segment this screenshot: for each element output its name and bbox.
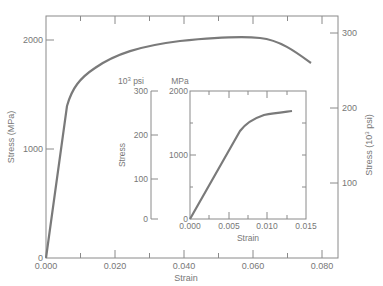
main-x-tick-labels: 0.000 0.020 0.040 0.060 0.080 xyxy=(35,261,334,271)
inset-plot: 300 200 100 0 2000 1000 0 0.000 0.005 0.… xyxy=(110,75,317,243)
inset-mpa-unit-label: MPa xyxy=(171,76,189,86)
inset-x-tick-label: 0.015 xyxy=(295,221,317,231)
main-y-axis-label-right: Stress (103 psi) xyxy=(364,114,374,175)
inset-x-tick-label: 0.000 xyxy=(179,221,201,231)
x-tick-label: 0.040 xyxy=(173,261,196,271)
inset-psi-tick-label: 100 xyxy=(134,174,148,184)
inset-y-axis-label: Stress xyxy=(117,143,127,167)
main-x-axis-label: Strain xyxy=(174,273,198,283)
stress-strain-chart: 0.000 0.020 0.040 0.060 0.080 0 1000 200… xyxy=(0,0,383,286)
inset-psi-tick-label: 300 xyxy=(134,86,148,96)
main-y-right-tick-labels: 100 200 300 xyxy=(342,28,357,188)
main-y-left-ticks xyxy=(46,40,54,149)
inset-psi-unit-label: 103 psi xyxy=(118,76,144,86)
x-tick-label: 0.060 xyxy=(242,261,265,271)
y-tick-label: 0 xyxy=(38,253,43,263)
y-tick-label: 1000 xyxy=(23,144,43,154)
inset-x-tick-label: 0.010 xyxy=(256,221,278,231)
inset-mpa-tick-label: 2000 xyxy=(169,86,188,96)
inset-psi-tick-label: 200 xyxy=(134,130,148,140)
y2-tick-label: 100 xyxy=(342,178,357,188)
inset-psi-tick-label: 0 xyxy=(143,214,148,224)
inset-mpa-tick-label: 1000 xyxy=(169,150,188,160)
inset-x-tick-label: 0.005 xyxy=(218,221,240,231)
x-tick-label: 0.020 xyxy=(104,261,127,271)
y-tick-label: 2000 xyxy=(23,35,43,45)
inset-x-axis-label: Strain xyxy=(237,233,259,243)
y2-tick-label: 200 xyxy=(342,103,357,113)
x-tick-label: 0.080 xyxy=(311,261,334,271)
main-y-axis-label-left: Stress (MPa) xyxy=(6,111,16,164)
main-y-left-tick-labels: 0 1000 2000 xyxy=(23,35,43,263)
y2-tick-label: 300 xyxy=(342,28,357,38)
main-y-right-ticks xyxy=(330,33,338,183)
